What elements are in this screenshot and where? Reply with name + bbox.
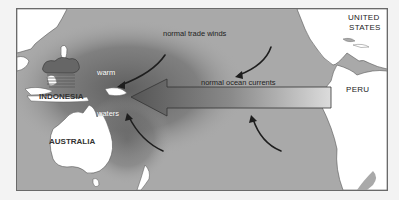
map-frame: normal trade winds normal ocean currents… (16, 8, 388, 191)
wind-arrow-2 (239, 47, 271, 75)
united-states-label-line1: UNITED (348, 14, 380, 22)
wind-arrow-4 (253, 119, 281, 151)
ocean-currents-label: normal ocean currents (201, 79, 276, 87)
warm-label: warm (97, 69, 115, 77)
united-states-label-line2: STATES (349, 24, 381, 32)
waters-label: waters (97, 110, 119, 118)
trade-winds-label: normal trade winds (163, 30, 226, 38)
tasmania (93, 179, 99, 187)
peru-label: PERU (346, 86, 369, 94)
indonesia-label: INDONESIA (39, 93, 83, 101)
south-america (321, 65, 387, 190)
australia-label: AUSTRALIA (49, 138, 95, 146)
